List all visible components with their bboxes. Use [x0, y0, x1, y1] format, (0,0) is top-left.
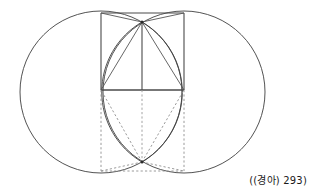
figure-caption: ((경아) 293): [249, 175, 307, 187]
top-apex-point: [141, 21, 144, 24]
lower-corner-ray-right: [142, 162, 184, 171]
upper-corner-ray-right: [142, 13, 184, 22]
lower-diagonals-group: [101, 90, 184, 171]
figure-container: ((경아) 293): [0, 0, 313, 194]
upper-diagonal-right: [142, 22, 184, 90]
geometry-diagram: [0, 0, 313, 194]
lower-corner-ray-left: [101, 162, 142, 171]
lens-left-arc: [102, 22, 142, 162]
bottom-apex-point: [141, 161, 144, 164]
lower-diagonal-right: [142, 90, 184, 162]
lower-square-group: [101, 90, 184, 171]
lower-diagonal-left: [101, 90, 142, 162]
lens-right-arc: [142, 22, 182, 162]
upper-diagonal-left: [101, 22, 142, 90]
upper-corner-ray-left: [101, 13, 142, 22]
